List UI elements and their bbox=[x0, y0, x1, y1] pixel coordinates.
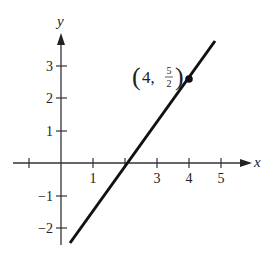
y-axis: 3 2 1 −1 −2 y bbox=[38, 13, 67, 245]
y-tick-label: 2 bbox=[46, 91, 53, 106]
x-axis-label: x bbox=[253, 154, 261, 170]
y-tick-label: 3 bbox=[46, 59, 53, 74]
x-tick-label: 1 bbox=[90, 171, 97, 186]
annotation-open-paren: ( bbox=[132, 62, 141, 91]
x-tick-label: 4 bbox=[186, 171, 193, 186]
y-axis-label: y bbox=[55, 13, 64, 29]
annotation-fraction-denominator: 2 bbox=[167, 78, 172, 89]
annotation-fraction-numerator: 5 bbox=[167, 65, 172, 76]
annotation-close-paren: ) bbox=[175, 62, 184, 91]
x-axis: 1 3 4 5 x bbox=[13, 154, 261, 186]
y-tick-label: −1 bbox=[38, 189, 53, 204]
y-axis-arrow-icon bbox=[57, 33, 65, 45]
y-tick-label: −2 bbox=[38, 221, 53, 236]
annotation-x-value: 4, bbox=[142, 68, 155, 87]
x-axis-arrow-icon bbox=[240, 159, 252, 167]
x-tick-label: 3 bbox=[154, 171, 161, 186]
point-annotation: ( 4, 5 2 ) bbox=[132, 62, 184, 91]
y-tick-label: 1 bbox=[46, 124, 53, 139]
line-graph: 1 3 4 5 x 3 2 1 −1 −2 y bbox=[0, 0, 266, 260]
x-tick-label: 5 bbox=[218, 171, 225, 186]
data-point bbox=[185, 75, 193, 83]
